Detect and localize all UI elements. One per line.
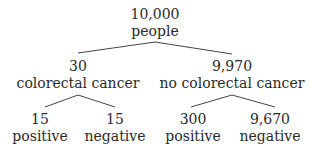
leaf-label: positive — [12, 128, 67, 145]
leaf-count: 15 — [85, 111, 146, 128]
node-count: 30 — [17, 58, 140, 75]
node-label: colorectal cancer — [17, 75, 140, 92]
edge-no-cancer-positive — [191, 95, 232, 107]
root-node: 10,000 people — [131, 6, 180, 40]
root-label: people — [131, 23, 180, 40]
edge-cancer-negative — [78, 95, 115, 107]
node-colorectal-cancer: 30 colorectal cancer — [17, 58, 140, 92]
leaf-label: negative — [85, 128, 146, 145]
leaf-cancer-positive: 15 positive — [12, 111, 67, 145]
leaf-label: negative — [240, 128, 301, 145]
leaf-cancer-negative: 15 negative — [85, 111, 146, 145]
node-label: no colorectal cancer — [160, 75, 305, 92]
root-count: 10,000 — [131, 6, 180, 23]
leaf-no-cancer-negative: 9,670 negative — [240, 111, 301, 145]
edge-root-no-cancer — [155, 42, 232, 54]
leaf-count: 15 — [12, 111, 67, 128]
edge-no-cancer-negative — [232, 95, 275, 107]
leaf-count: 300 — [165, 111, 220, 128]
leaf-label: positive — [165, 128, 220, 145]
node-no-colorectal-cancer: 9,970 no colorectal cancer — [160, 58, 305, 92]
edge-cancer-positive — [45, 95, 78, 107]
leaf-no-cancer-positive: 300 positive — [165, 111, 220, 145]
edge-root-cancer — [78, 42, 155, 53]
leaf-count: 9,670 — [240, 111, 301, 128]
node-count: 9,970 — [160, 58, 305, 75]
